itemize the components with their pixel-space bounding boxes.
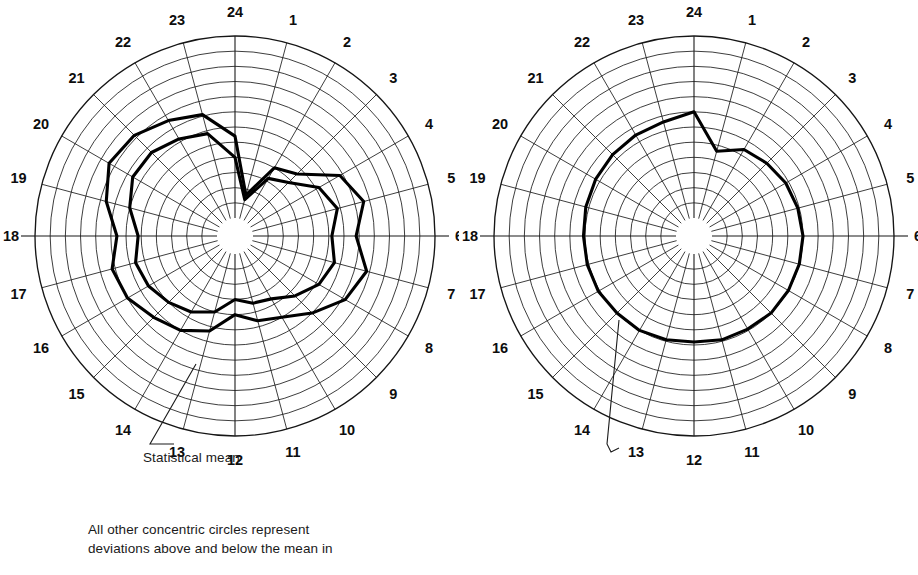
spoke-label-hour-11: 11	[744, 444, 759, 460]
spoke-label-hour-15: 15	[69, 386, 85, 402]
spoke-label-hour-20: 20	[492, 116, 508, 132]
grid-spoke-hour-2	[244, 63, 335, 221]
polar-grid-left	[21, 36, 449, 436]
grid-spoke-hour-22	[594, 63, 685, 221]
grid-spoke-hour-23	[183, 43, 230, 219]
spoke-label-hour-1: 1	[748, 12, 756, 28]
grid-spoke-hour-17	[42, 241, 218, 288]
spoke-label-hour-11: 11	[285, 444, 300, 460]
spoke-label-hour-21: 21	[528, 70, 544, 86]
spoke-label-hour-23: 23	[169, 12, 185, 28]
spoke-label-hour-16: 16	[33, 340, 49, 356]
spoke-label-hour-15: 15	[528, 386, 544, 402]
spoke-label-hour-14: 14	[115, 422, 131, 438]
spoke-label-hour-9: 9	[389, 386, 397, 402]
spoke-label-hour-10: 10	[339, 422, 355, 438]
grid-spoke-hour-5	[252, 184, 428, 231]
spoke-label-hour-3: 3	[389, 70, 397, 86]
spoke-label-hour-19: 19	[470, 170, 486, 186]
polar-chart-left: 123456789101112131415161718192021222324	[0, 0, 459, 500]
spoke-label-hour-23: 23	[628, 12, 644, 28]
spoke-label-hour-8: 8	[425, 340, 433, 356]
spoke-label-hour-9: 9	[848, 386, 856, 402]
grid-spoke-hour-22	[135, 63, 226, 221]
grid-spoke-hour-21	[553, 95, 682, 224]
grid-spoke-hour-8	[251, 245, 409, 336]
grid-spoke-hour-3	[248, 95, 377, 224]
polar-charts-figure: 123456789101112131415161718192021222324 …	[0, 0, 918, 575]
spoke-label-hour-24: 24	[227, 4, 243, 20]
note-statistical-mean: All other concentric circles represent d…	[88, 521, 418, 558]
leader-line-right	[607, 320, 619, 452]
spoke-label-hour-10: 10	[798, 422, 814, 438]
grid-spoke-hour-19	[501, 184, 677, 231]
chart-hub	[218, 219, 252, 253]
spoke-label-hour-7: 7	[447, 286, 455, 302]
grid-spoke-hour-3	[707, 95, 836, 224]
grid-spoke-hour-20	[62, 136, 220, 227]
spoke-label-hour-22: 22	[115, 34, 131, 50]
grid-spoke-hour-11	[240, 253, 287, 429]
polar-grid-right	[480, 36, 908, 436]
spoke-label-hour-16: 16	[492, 340, 508, 356]
spoke-label-hour-20: 20	[33, 116, 49, 132]
spoke-label-hour-4: 4	[884, 116, 892, 132]
spoke-label-hour-19: 19	[11, 170, 27, 186]
spoke-label-hour-22: 22	[574, 34, 590, 50]
spoke-label-hour-13: 13	[628, 444, 644, 460]
spoke-label-hour-12: 12	[686, 452, 702, 468]
spoke-label-hour-2: 2	[343, 34, 351, 50]
spoke-label-hour-6: 6	[914, 228, 918, 244]
spoke-label-hour-21: 21	[69, 70, 85, 86]
spoke-label-hour-1: 1	[289, 12, 297, 28]
spoke-label-hour-14: 14	[574, 422, 590, 438]
spoke-label-hour-24: 24	[686, 4, 702, 20]
spoke-label-hour-4: 4	[425, 116, 433, 132]
spoke-label-hour-5: 5	[447, 170, 455, 186]
annotation-statistical-mean: Statistical mean	[143, 449, 240, 468]
spoke-label-hour-8: 8	[884, 340, 892, 356]
spoke-label-hour-18: 18	[3, 228, 19, 244]
spoke-label-hour-18: 18	[462, 228, 478, 244]
spoke-label-hour-2: 2	[802, 34, 810, 50]
leader-line-left	[150, 364, 196, 444]
panel-normal-performance: 123456789101112131415161718192021222324 …	[459, 0, 918, 575]
grid-spoke-hour-7	[252, 241, 428, 288]
chart-hub	[677, 219, 711, 253]
grid-spoke-hour-16	[62, 245, 220, 336]
grid-spoke-hour-13	[183, 253, 230, 429]
grid-spoke-hour-4	[251, 136, 409, 227]
grid-spoke-hour-20	[521, 136, 679, 227]
grid-spoke-hour-23	[642, 43, 689, 219]
spoke-label-hour-3: 3	[848, 70, 856, 86]
spoke-label-hour-17: 17	[11, 286, 27, 302]
panel-statistical-mean: 123456789101112131415161718192021222324 …	[0, 0, 459, 575]
grid-spoke-hour-2	[703, 63, 794, 221]
spoke-label-hour-5: 5	[906, 170, 914, 186]
spoke-label-hour-17: 17	[470, 286, 486, 302]
spoke-label-hour-7: 7	[906, 286, 914, 302]
polar-chart-right: 123456789101112131415161718192021222324	[459, 0, 918, 500]
grid-spoke-hour-10	[244, 252, 335, 410]
